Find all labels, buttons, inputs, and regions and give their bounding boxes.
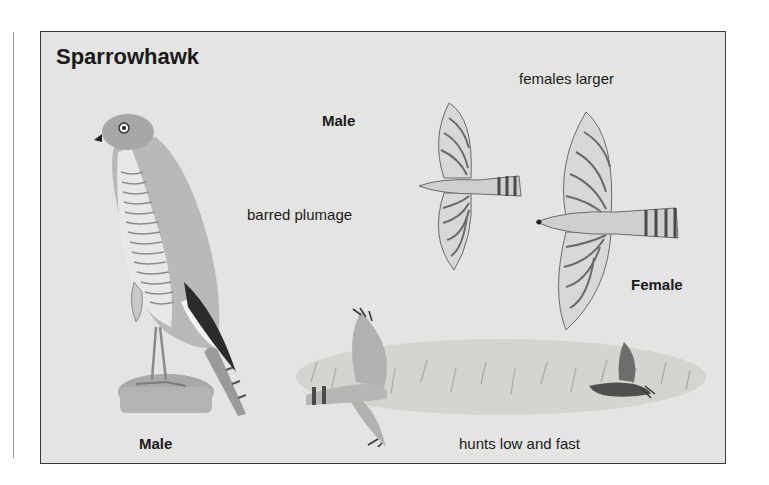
illustration-panel: Sparrowhawk females larger Male barred p… [40, 31, 726, 464]
label-females-larger: females larger [519, 70, 614, 87]
panel-title: Sparrowhawk [56, 44, 199, 70]
label-male-flight: Male [322, 112, 355, 129]
label-barred-plumage: barred plumage [247, 206, 352, 223]
side-rule [13, 32, 14, 458]
male-flight-hawk-illustration [419, 98, 524, 273]
label-hunts-low-fast: hunts low and fast [459, 435, 580, 452]
label-male-perched: Male [139, 435, 172, 452]
perched-male-hawk-illustration [86, 102, 261, 422]
prey-bird-illustration [589, 342, 659, 402]
hunting-hawk-illustration [306, 307, 416, 447]
female-flight-hawk-illustration [536, 112, 681, 332]
